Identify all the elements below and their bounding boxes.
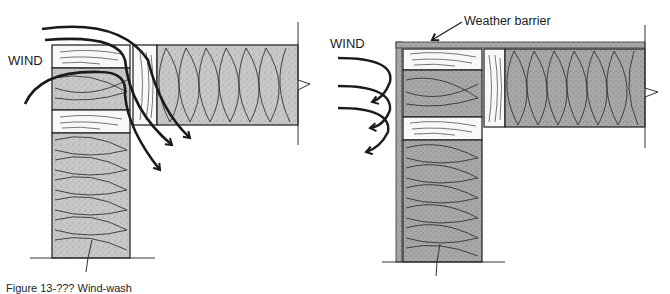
figure-caption: Figure 13-??? Wind-wash [6, 282, 132, 294]
wind-arrows-right [338, 58, 390, 152]
right-panel [338, 22, 658, 276]
weather-barrier-label: Weather barrier [464, 14, 551, 28]
left-panel [25, 22, 310, 272]
wind-label-left: WIND [8, 53, 43, 68]
wind-label-right: WIND [330, 36, 365, 51]
callout-arrow [432, 22, 462, 40]
